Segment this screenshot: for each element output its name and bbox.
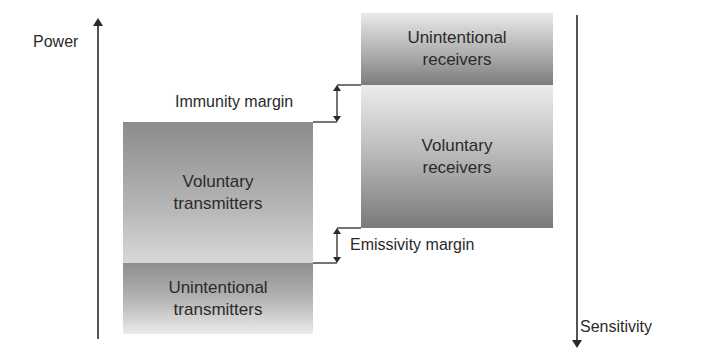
voluntary-receivers-label: Voluntary receivers (422, 135, 493, 179)
immunity-margin-bracket (313, 85, 361, 122)
voluntary-transmitters-box: Voluntary transmitters (123, 122, 313, 263)
voluntary-transmitters-label: Voluntary transmitters (174, 171, 263, 215)
unintentional-receivers-label: Unintentional receivers (407, 27, 506, 71)
sensitivity-axis-label: Sensitivity (580, 319, 652, 335)
unintentional-receivers-box: Unintentional receivers (361, 13, 553, 85)
voluntary-receivers-box: Voluntary receivers (361, 85, 553, 228)
unintentional-transmitters-box: Unintentional transmitters (123, 263, 313, 334)
immunity-margin-label: Immunity margin (175, 94, 293, 110)
diagram-lines (0, 0, 702, 359)
power-axis-label: Power (33, 34, 78, 50)
unintentional-transmitters-label: Unintentional transmitters (168, 277, 267, 321)
emissivity-margin-label: Emissivity margin (350, 237, 474, 253)
